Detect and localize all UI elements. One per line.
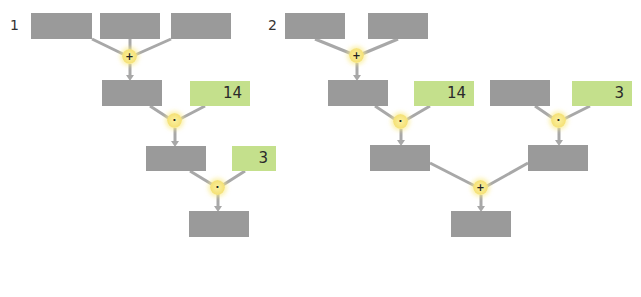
box-value: 14 xyxy=(223,84,242,102)
tree-1-constant-3: 3 xyxy=(232,146,276,171)
tree-2-constant-3: 3 xyxy=(572,81,632,106)
tree-2-input-box-3[interactable] xyxy=(490,80,550,106)
tree-1-input-box-3[interactable] xyxy=(171,13,231,39)
tree-1-input-box-1[interactable] xyxy=(31,13,92,39)
tree-2-constant-14: 14 xyxy=(414,81,474,106)
tree-2-label: 2 xyxy=(268,17,277,33)
tree-1-input-box-2[interactable] xyxy=(100,13,160,39)
tree-2-product-box-1[interactable] xyxy=(370,145,430,171)
box-value: 3 xyxy=(258,149,268,167)
multiply-operator-icon: · xyxy=(551,113,566,128)
tree-1-constant-14: 14 xyxy=(190,81,250,106)
tree-2-sum-box[interactable] xyxy=(328,80,388,106)
tree-2-input-box-1[interactable] xyxy=(285,13,345,39)
multiply-operator-icon: · xyxy=(167,113,182,128)
tree-2-product-box-2[interactable] xyxy=(528,145,588,171)
multiply-operator-icon: · xyxy=(393,114,408,129)
tree-1-label: 1 xyxy=(10,17,19,33)
plus-operator-icon: + xyxy=(349,48,364,63)
plus-operator-icon: + xyxy=(473,180,488,195)
box-value: 14 xyxy=(447,84,466,102)
tree-1-product-box[interactable] xyxy=(146,146,206,171)
box-value: 3 xyxy=(614,84,624,102)
multiply-operator-icon: · xyxy=(210,180,225,195)
tree-2-result-box[interactable] xyxy=(451,211,511,237)
plus-operator-icon: + xyxy=(122,49,137,64)
tree-1-result-box[interactable] xyxy=(189,211,249,237)
tree-1-sum-box[interactable] xyxy=(102,80,162,106)
tree-2-input-box-2[interactable] xyxy=(368,13,428,39)
arithmetic-trees-diagram: 1 + 14 · 3 · 2 + 14 3 · · + xyxy=(0,0,641,297)
